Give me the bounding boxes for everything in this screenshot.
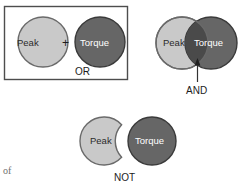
- not-operator-label: NOT: [114, 173, 135, 183]
- or-peak-label: Peak: [17, 38, 39, 48]
- and-peak-label: Peak: [163, 38, 185, 48]
- not-torque-label: Torque: [135, 136, 164, 146]
- or-plus-symbol: +: [62, 37, 69, 49]
- and-torque-label: Torque: [194, 38, 223, 48]
- or-operator-label: OR: [75, 67, 90, 77]
- or-torque-label: Torque: [80, 38, 109, 48]
- not-peak-label: Peak: [90, 136, 112, 146]
- and-operator-label: AND: [186, 86, 207, 96]
- page-caption-fragment: of: [3, 166, 11, 176]
- figure-canvas: Peak + Torque OR Peak Torque AND Peak To…: [0, 0, 242, 189]
